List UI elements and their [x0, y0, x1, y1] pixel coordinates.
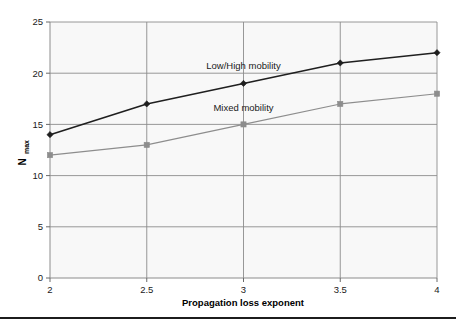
data-point-marker: [144, 142, 149, 147]
series-annotation-low-high-mobility: Low/High mobility: [206, 60, 281, 71]
y-axis-title-subscript: max: [23, 140, 30, 154]
line-chart: 0510152025 22.533.54 Low/High mobilityMi…: [0, 0, 456, 326]
y-tick-label: 0: [38, 272, 43, 283]
x-tick-label: 3.5: [334, 284, 347, 295]
y-tick-label: 10: [32, 170, 43, 181]
data-point-marker: [434, 91, 439, 96]
y-tick-label: 5: [38, 221, 43, 232]
x-tick-label: 3: [241, 284, 246, 295]
data-point-marker: [47, 153, 52, 158]
figure-container: 0510152025 22.533.54 Low/High mobilityMi…: [0, 0, 456, 326]
y-tick-label: 25: [32, 16, 43, 27]
x-tick-label: 2.5: [140, 284, 153, 295]
x-tick-label: 2: [47, 284, 52, 295]
x-tick-label: 4: [434, 284, 439, 295]
x-axis-title: Propagation loss exponent: [182, 297, 305, 308]
y-tick-label: 20: [32, 68, 43, 79]
data-point-marker: [241, 122, 246, 127]
data-point-marker: [338, 101, 343, 106]
y-tick-label: 15: [32, 119, 43, 130]
series-annotation-mixed-mobility: Mixed mobility: [213, 102, 273, 113]
y-axis-title-base: N: [17, 158, 28, 165]
